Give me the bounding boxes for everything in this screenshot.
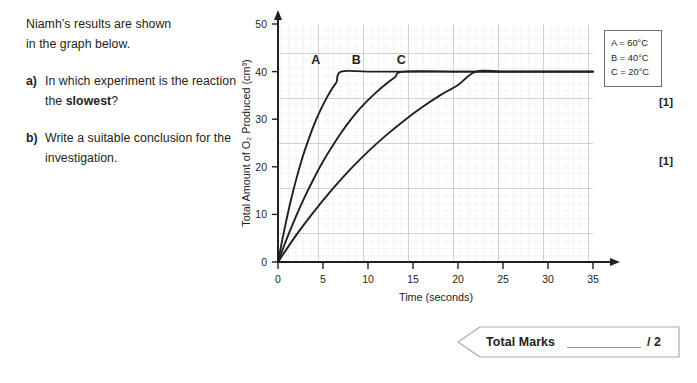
svg-text:15: 15 (407, 273, 419, 285)
svg-text:0: 0 (261, 256, 267, 268)
marks-part-a: [1] (659, 96, 673, 108)
total-marks-banner: Total Marks / 2 (456, 326, 680, 358)
temperature-legend-box: A = 60°C B = 40°C C = 20°C (604, 30, 662, 87)
question-a-text: In which experiment is the reaction the … (45, 71, 251, 111)
x-axis-arrow (610, 258, 620, 266)
svg-text:0: 0 (275, 273, 281, 285)
total-marks-label: Total Marks (486, 335, 555, 349)
question-part-b: b) Write a suitable conclusion for the i… (26, 128, 251, 168)
marks-part-b: [1] (659, 155, 673, 167)
x-axis-tick-labels: 0 5 10 15 20 25 30 35 (275, 273, 599, 285)
reaction-rate-graph: 0 10 20 30 40 50 0 5 10 15 20 25 30 35 (228, 8, 628, 308)
svg-text:20: 20 (255, 161, 267, 173)
svg-text:C: C (397, 53, 406, 67)
question-a-text-after: ? (111, 94, 118, 108)
question-column: Niamh’s results are shown in the graph b… (26, 14, 251, 168)
chart-gridlines (278, 24, 593, 262)
legend-item-a: A = 60°C (611, 36, 655, 51)
total-marks-blank-field[interactable] (567, 337, 641, 348)
x-axis-ticks (278, 262, 593, 269)
chart-svg: 0 10 20 30 40 50 0 5 10 15 20 25 30 35 (228, 8, 628, 308)
y-axis-arrow (274, 10, 282, 20)
total-marks-out-of: / 2 (647, 335, 661, 349)
svg-text:A: A (311, 53, 320, 67)
total-marks-content: Total Marks / 2 (486, 326, 661, 358)
x-axis-title: Time (seconds) (399, 291, 473, 303)
intro-line-2: in the graph below. (26, 34, 251, 54)
svg-text:30: 30 (255, 113, 267, 125)
intro-line-1: Niamh’s results are shown (26, 14, 251, 34)
svg-text:10: 10 (255, 208, 267, 220)
svg-text:5: 5 (320, 273, 326, 285)
svg-text:30: 30 (542, 273, 554, 285)
svg-text:35: 35 (587, 273, 599, 285)
y-axis-tick-labels: 0 10 20 30 40 50 (255, 18, 267, 268)
legend-item-c: C = 20°C (611, 65, 655, 80)
question-b-letter: b) (26, 128, 45, 168)
question-part-a: a) In which experiment is the reaction t… (26, 71, 251, 111)
y-axis-title: Total Amount of O₂ Produced (cm³) (240, 59, 252, 226)
svg-text:50: 50 (255, 18, 267, 30)
svg-text:B: B (352, 53, 361, 67)
question-a-text-bold: slowest (66, 94, 111, 108)
question-a-letter: a) (26, 71, 45, 111)
svg-text:40: 40 (255, 66, 267, 78)
question-b-text: Write a suitable conclusion for the inve… (45, 128, 251, 168)
svg-text:10: 10 (362, 273, 374, 285)
svg-text:20: 20 (452, 273, 464, 285)
svg-text:25: 25 (497, 273, 509, 285)
legend-item-b: B = 40°C (611, 51, 655, 66)
